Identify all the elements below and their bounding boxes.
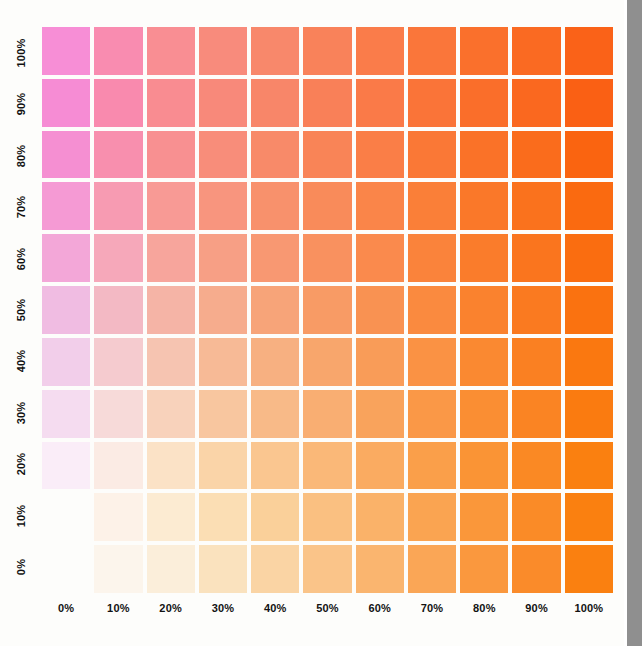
y-axis-tick-label: 60% (15, 247, 27, 270)
x-axis-tick-label: 80% (460, 597, 508, 619)
color-ramp-chart: 100%90%80%70%60%50%40%30%20%10%0% 0%10%2… (0, 0, 642, 646)
y-axis-tick-label: 20% (15, 453, 27, 476)
color-swatch (42, 234, 90, 282)
color-swatch (408, 182, 456, 230)
color-swatch (199, 493, 247, 541)
color-swatch (147, 442, 195, 490)
color-swatch (147, 234, 195, 282)
color-swatch (460, 131, 508, 179)
color-swatch (147, 493, 195, 541)
color-swatch (147, 182, 195, 230)
x-axis: 0%10%20%30%40%50%60%70%80%90%100% (42, 597, 613, 619)
color-swatch (303, 338, 351, 386)
x-axis-tick-label: 70% (408, 597, 456, 619)
color-swatch (565, 79, 613, 127)
color-swatch (199, 182, 247, 230)
color-swatch (147, 286, 195, 334)
color-swatch (408, 545, 456, 593)
page-edge-strip (627, 0, 642, 646)
color-swatch (42, 338, 90, 386)
color-swatch (512, 442, 560, 490)
color-swatch (565, 131, 613, 179)
color-swatch (251, 545, 299, 593)
color-swatch (199, 131, 247, 179)
color-swatch (408, 338, 456, 386)
color-swatch (460, 79, 508, 127)
color-swatch (147, 131, 195, 179)
y-axis-tick: 90% (0, 78, 42, 129)
color-swatch (460, 286, 508, 334)
color-swatch (94, 390, 142, 438)
color-swatch (147, 79, 195, 127)
color-swatch (251, 131, 299, 179)
x-axis-tick-label: 100% (565, 597, 613, 619)
color-swatch (460, 442, 508, 490)
color-swatch (199, 79, 247, 127)
color-swatch (356, 79, 404, 127)
y-axis-tick-label: 50% (15, 299, 27, 322)
color-swatch (408, 79, 456, 127)
x-axis-tick-label: 10% (94, 597, 142, 619)
color-swatch (303, 234, 351, 282)
color-swatch (94, 338, 142, 386)
color-swatch (147, 390, 195, 438)
color-swatch (199, 27, 247, 75)
color-swatch (356, 338, 404, 386)
y-axis-tick-label: 30% (15, 402, 27, 425)
color-swatch (565, 390, 613, 438)
y-axis-tick-label: 90% (15, 93, 27, 116)
color-swatch (356, 27, 404, 75)
color-swatch (303, 442, 351, 490)
color-swatch (565, 338, 613, 386)
color-swatch (565, 27, 613, 75)
color-swatch (460, 493, 508, 541)
y-axis: 100%90%80%70%60%50%40%30%20%10%0% (0, 27, 42, 593)
color-swatch (42, 545, 90, 593)
color-swatch (356, 131, 404, 179)
x-axis-tick-label: 40% (251, 597, 299, 619)
x-axis-tick-label: 60% (356, 597, 404, 619)
y-axis-tick: 30% (0, 387, 42, 438)
color-swatch (356, 286, 404, 334)
color-swatch (460, 338, 508, 386)
color-swatch (356, 234, 404, 282)
y-axis-tick-label: 10% (15, 504, 27, 527)
x-axis-tick-label: 50% (303, 597, 351, 619)
color-swatch (303, 545, 351, 593)
color-swatch (94, 182, 142, 230)
color-swatch (42, 131, 90, 179)
y-axis-tick-label: 80% (15, 144, 27, 167)
color-swatch (512, 493, 560, 541)
color-swatch (512, 545, 560, 593)
swatch-grid (42, 27, 613, 593)
color-swatch (94, 131, 142, 179)
y-axis-tick: 100% (0, 27, 42, 78)
color-swatch (251, 79, 299, 127)
color-swatch (147, 338, 195, 386)
color-swatch (460, 182, 508, 230)
color-swatch (303, 131, 351, 179)
color-swatch (251, 493, 299, 541)
y-axis-tick: 10% (0, 490, 42, 541)
color-swatch (251, 286, 299, 334)
color-swatch (565, 182, 613, 230)
color-swatch (251, 234, 299, 282)
color-swatch (303, 182, 351, 230)
x-axis-tick-label: 20% (147, 597, 195, 619)
color-swatch (408, 234, 456, 282)
color-swatch (251, 390, 299, 438)
color-swatch (251, 182, 299, 230)
color-swatch (42, 79, 90, 127)
color-swatch (512, 27, 560, 75)
color-swatch (356, 493, 404, 541)
color-swatch (199, 442, 247, 490)
color-swatch (42, 442, 90, 490)
color-swatch (303, 27, 351, 75)
color-swatch (94, 27, 142, 75)
color-swatch (251, 27, 299, 75)
color-swatch (408, 27, 456, 75)
color-swatch (512, 131, 560, 179)
color-swatch (199, 390, 247, 438)
color-swatch (94, 79, 142, 127)
color-swatch (460, 390, 508, 438)
